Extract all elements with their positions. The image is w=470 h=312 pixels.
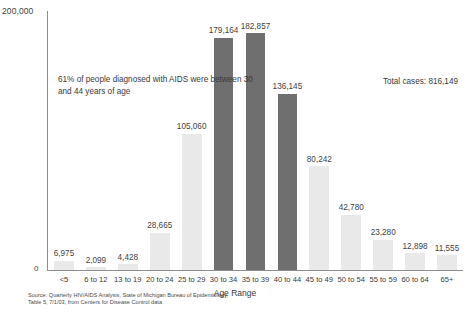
bar-slot: 80,242 — [303, 11, 335, 270]
bar-value-label: 182,857 — [241, 22, 271, 31]
bar[interactable] — [373, 240, 393, 270]
bar-value-label: 105,060 — [177, 122, 207, 131]
bar-slot: 182,857 — [240, 11, 272, 270]
x-tick-label: 50 to 54 — [335, 275, 367, 284]
source-note: Source: Quarterly HIV/AIDS Analysis, Sta… — [28, 292, 228, 307]
bar[interactable] — [309, 166, 329, 270]
source-line-2: Table 5, 7/1/03, from Centers for Diseas… — [28, 299, 228, 306]
bar-value-label: 11,555 — [435, 244, 459, 253]
bar-value-label: 136,145 — [273, 82, 303, 91]
plot-area: 6,9752,0994,42828,665105,060179,164182,8… — [48, 11, 463, 270]
bar-value-label: 6,975 — [54, 249, 75, 258]
bar-slot: 179,164 — [208, 11, 240, 270]
bar[interactable] — [437, 255, 457, 270]
bar-slot: 42,780 — [335, 11, 367, 270]
bar-slot: 2,099 — [80, 11, 112, 270]
bar-value-label: 23,280 — [371, 228, 396, 237]
y-axis-zero-label: 0 — [34, 264, 38, 273]
total-cases-label: Total cases: 816,149 — [383, 77, 458, 86]
bar[interactable] — [246, 33, 266, 270]
bar-slot: 136,145 — [271, 11, 303, 270]
bar-slot: 12,898 — [399, 11, 431, 270]
x-tick-label: 45 to 49 — [303, 275, 335, 284]
bar-slot: 4,428 — [112, 11, 144, 270]
x-tick-label: 65+ — [431, 275, 463, 284]
source-line-1: Source: Quarterly HIV/AIDS Analysis, Sta… — [28, 292, 228, 299]
bar[interactable] — [405, 253, 425, 270]
x-tick-label: 30 to 34 — [208, 275, 240, 284]
bar-value-label: 28,665 — [147, 221, 172, 230]
x-axis-line — [47, 270, 463, 271]
bar-value-label: 4,428 — [118, 253, 139, 262]
chart-annotation: 61% of people diagnosed with AIDS were b… — [58, 74, 258, 97]
bar-value-label: 2,099 — [86, 256, 107, 265]
y-axis-max-label: 200,000 — [2, 6, 33, 16]
bar-slot: 23,280 — [367, 11, 399, 270]
bar-value-label: 80,242 — [307, 155, 332, 164]
bar-value-label: 12,898 — [403, 242, 428, 251]
x-tick-label: 40 to 44 — [271, 275, 303, 284]
bar[interactable] — [54, 261, 74, 270]
bar[interactable] — [214, 38, 234, 270]
bar-slot: 28,665 — [144, 11, 176, 270]
bar-slot: 105,060 — [176, 11, 208, 270]
x-tick-label: 60 to 64 — [399, 275, 431, 284]
bar[interactable] — [341, 215, 361, 270]
x-tick-label: 35 to 39 — [240, 275, 272, 284]
x-tick-label: 6 to 12 — [80, 275, 112, 284]
x-tick-label: 20 to 24 — [144, 275, 176, 284]
bar-value-label: 42,780 — [339, 203, 364, 212]
bar-slot: 6,975 — [48, 11, 80, 270]
x-tick-label: <5 — [48, 275, 80, 284]
bar[interactable] — [278, 94, 298, 270]
aids-age-range-bar-chart: 200,000 0 6,9752,0994,42828,665105,06017… — [0, 0, 470, 312]
x-tick-label: 13 to 19 — [112, 275, 144, 284]
x-tick-label: 55 to 59 — [367, 275, 399, 284]
x-tick-label: 25 to 29 — [176, 275, 208, 284]
bar-slot: 11,555 — [431, 11, 463, 270]
bar[interactable] — [150, 233, 170, 270]
bar[interactable] — [182, 134, 202, 270]
bar-value-label: 179,164 — [209, 26, 239, 35]
